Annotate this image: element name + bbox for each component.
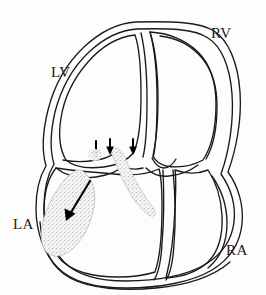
chamber-label-la: LA [13,216,34,233]
chamber-label-ra: RA [226,242,248,259]
right-ventricle-cavity [150,32,216,167]
right-ventricle-inner-wall [160,36,217,159]
interventricular-septum-left [141,33,147,157]
chamber-label-rv: RV [211,25,231,42]
valve-arrow-right [129,139,137,155]
left-atrium-roof [56,164,126,178]
chamber-label-lv: LV [51,64,70,81]
valve-stipple-blob [88,149,102,161]
left-ventricle-cavity [60,35,141,168]
heart-diagram-figure: LV RV LA RA [0,0,266,295]
